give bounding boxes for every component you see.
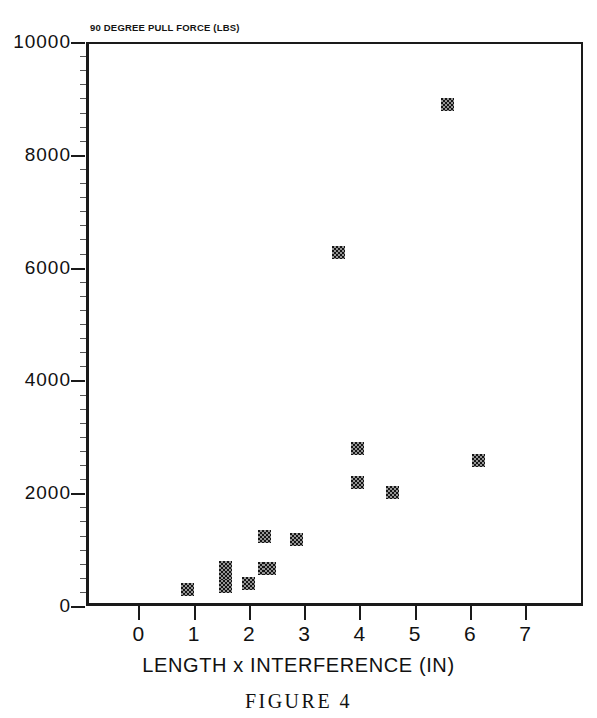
y-axis-minor-tick: [80, 521, 86, 522]
data-point: [181, 583, 194, 596]
data-point: [441, 98, 454, 111]
y-axis-minor-tick: [80, 578, 86, 579]
y-axis-tick-label: 4000: [25, 369, 71, 391]
y-axis-tick-mark: [71, 606, 85, 608]
y-axis-minor-tick: [80, 507, 86, 508]
x-axis-tick-mark: [525, 606, 527, 620]
y-axis-minor-tick: [80, 113, 86, 114]
x-axis-tick-mark: [304, 606, 306, 620]
x-axis-tick-mark: [415, 606, 417, 620]
y-axis-minor-tick: [80, 141, 86, 142]
data-point: [263, 562, 276, 575]
y-axis-minor-tick: [80, 592, 86, 593]
y-axis-tick-label: 2000: [25, 482, 71, 504]
y-axis-minor-tick: [80, 550, 86, 551]
data-point: [242, 577, 255, 590]
data-point: [351, 442, 364, 455]
x-axis-tick-label: 2: [229, 622, 269, 646]
chart-title: 90 DEGREE PULL FORCE (LBS): [90, 22, 240, 33]
y-axis-tick-mark: [71, 380, 85, 382]
y-axis-tick-label: 8000: [25, 144, 71, 166]
x-axis-tick-label: 5: [395, 622, 435, 646]
y-axis-minor-tick: [80, 338, 86, 339]
y-axis-minor-tick: [80, 225, 86, 226]
y-axis-minor-tick: [80, 324, 86, 325]
y-axis-minor-tick: [80, 169, 86, 170]
y-axis-minor-tick: [80, 310, 86, 311]
y-axis-tick-mark: [71, 268, 85, 270]
y-axis-minor-tick: [80, 70, 86, 71]
y-axis-minor-tick: [80, 352, 86, 353]
y-axis-minor-tick: [80, 437, 86, 438]
y-axis-minor-tick: [80, 409, 86, 410]
data-point: [219, 580, 232, 593]
data-point: [386, 486, 399, 499]
x-axis-tick-mark: [194, 606, 196, 620]
data-point: [258, 530, 271, 543]
y-axis-minor-tick: [80, 127, 86, 128]
x-axis-tick-label: 1: [174, 622, 214, 646]
y-axis-tick-mark: [71, 155, 85, 157]
y-axis-minor-tick: [80, 536, 86, 537]
x-axis-tick-label: 3: [284, 622, 324, 646]
y-axis-minor-tick: [80, 423, 86, 424]
x-axis-tick-label: 0: [118, 622, 158, 646]
data-point: [351, 476, 364, 489]
y-axis-minor-tick: [80, 239, 86, 240]
y-axis-minor-tick: [80, 296, 86, 297]
y-axis-tick-mark: [71, 493, 85, 495]
y-axis-minor-tick: [80, 564, 86, 565]
y-axis-minor-tick: [80, 282, 86, 283]
x-axis-tick-mark: [470, 606, 472, 620]
x-axis-tick-label: 7: [505, 622, 545, 646]
y-axis-tick-label: 10000: [13, 31, 71, 53]
y-axis-minor-tick: [80, 479, 86, 480]
data-point: [290, 533, 303, 546]
plot-area: [86, 42, 583, 606]
data-point: [332, 246, 345, 259]
y-axis-minor-tick: [80, 84, 86, 85]
y-axis-minor-tick: [80, 211, 86, 212]
x-axis-tick-mark: [138, 606, 140, 620]
y-axis: 0200040006000800010000: [0, 0, 71, 718]
x-axis-tick-label: 6: [450, 622, 490, 646]
y-axis-minor-tick: [80, 183, 86, 184]
y-axis-minor-tick: [80, 56, 86, 57]
y-axis-tick-label: 0: [59, 595, 71, 617]
x-axis-tick-label: 4: [339, 622, 379, 646]
y-axis-tick-label: 6000: [25, 257, 71, 279]
x-axis-tick-mark: [359, 606, 361, 620]
x-axis-label: LENGTH x INTERFERENCE (IN): [0, 654, 597, 677]
figure-container: 90 DEGREE PULL FORCE (LBS) 0200040006000…: [0, 0, 597, 718]
data-point: [472, 454, 485, 467]
y-axis-minor-tick: [80, 254, 86, 255]
y-axis-minor-tick: [80, 366, 86, 367]
x-axis-tick-mark: [249, 606, 251, 620]
y-axis-tick-mark: [71, 42, 85, 44]
y-axis-minor-tick: [80, 197, 86, 198]
y-axis-minor-tick: [80, 465, 86, 466]
y-axis-minor-tick: [80, 451, 86, 452]
y-axis-minor-tick: [80, 395, 86, 396]
y-axis-minor-tick: [80, 98, 86, 99]
figure-caption: FIGURE 4: [0, 690, 597, 713]
